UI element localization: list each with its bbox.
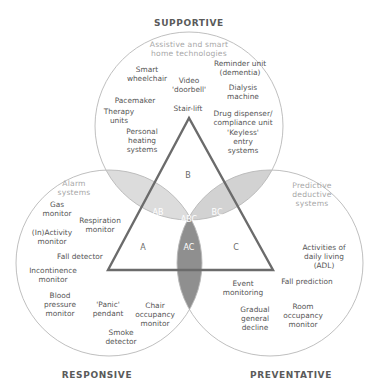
heading-supportive: SUPPORTIVE <box>154 18 224 28</box>
preventative-item: Gradualgeneraldecline <box>240 305 269 332</box>
heading-responsive: RESPONSIVE <box>62 370 132 380</box>
responsive-item: Fall detector <box>57 252 104 261</box>
region-b: B <box>185 171 191 180</box>
supportive-item: Pacemaker <box>115 96 157 105</box>
heading-preventative: PREVENTATIVE <box>250 370 332 380</box>
supportive-items: SmartwheelchairVideo'doorbell'Reminder u… <box>103 59 273 155</box>
preventative-item: Eventmonitoring <box>223 279 264 297</box>
responsive-item: Bloodpressuremonitor <box>44 291 76 318</box>
region-c: C <box>233 243 239 252</box>
region-a: A <box>140 243 146 252</box>
preventative-item: Fall prediction <box>281 277 333 286</box>
venn-diagram: SUPPORTIVE RESPONSIVE PREVENTATIVE Assis… <box>0 0 376 391</box>
category-alarm-line2: systems <box>58 188 91 197</box>
region-ab: AB <box>153 208 164 217</box>
region-abc: ABC <box>181 215 198 224</box>
category-assistive-line2: home technologies <box>151 49 227 58</box>
responsive-item: Incontinencemonitor <box>29 266 77 284</box>
supportive-item: 'Keyless'entrysystems <box>227 128 259 155</box>
supportive-item: Dialysismachine <box>227 83 259 101</box>
preventative-item: Roomoccupancymonitor <box>283 302 323 329</box>
responsive-item: 'Panic'pendant <box>93 300 124 318</box>
category-predictive-line1: Predictive <box>292 181 332 190</box>
category-assistive-line1: Assistive and smart <box>150 40 228 49</box>
region-bc: BC <box>212 208 223 217</box>
responsive-item: Chairoccupancymonitor <box>135 301 175 328</box>
supportive-item: Reminder unit(dementia) <box>214 59 266 77</box>
preventative-item: Activities ofdaily living(ADL) <box>302 243 346 270</box>
supportive-item: Stair-lift <box>174 104 203 113</box>
supportive-item: Therapyunits <box>103 107 135 125</box>
region-ac: AC <box>184 243 195 252</box>
supportive-item: Video'doorbell' <box>172 76 206 94</box>
category-predictive-line2: deductive <box>292 190 331 199</box>
supportive-item: Smartwheelchair <box>127 65 168 83</box>
supportive-item: Personalheatingsystems <box>126 127 157 154</box>
responsive-item: Respirationmonitor <box>79 216 121 234</box>
responsive-item: (In)Activitymonitor <box>32 228 73 246</box>
responsive-items: GasmonitorRespirationmonitor(In)Activity… <box>29 200 175 346</box>
supportive-item: Drug dispenser/compliance unit <box>213 109 272 127</box>
category-alarm-line1: Alarm <box>62 179 85 188</box>
preventative-items: Activities ofdaily living(ADL)Fall predi… <box>223 243 346 332</box>
responsive-item: Smokedetector <box>105 328 137 346</box>
category-predictive-line3: systems <box>296 199 329 208</box>
responsive-item: Gasmonitor <box>43 200 73 218</box>
